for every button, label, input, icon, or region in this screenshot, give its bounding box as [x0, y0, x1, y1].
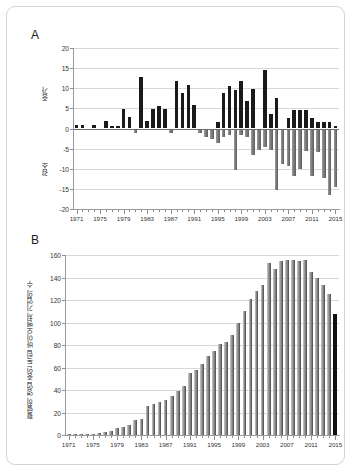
bar — [315, 278, 319, 436]
x-tick-mark — [111, 436, 112, 438]
bar — [145, 121, 149, 128]
bar-negative — [304, 129, 308, 151]
y-tick-label: 60 — [39, 364, 61, 371]
x-tick-mark — [281, 436, 282, 438]
x-tick-label: 1975 — [93, 215, 107, 222]
x-tick-mark-major — [117, 436, 118, 440]
y-tick-label: -15 — [47, 185, 69, 192]
x-tick-mark — [318, 210, 319, 212]
y-tick-label: 20 — [39, 409, 61, 416]
bar-negative — [310, 129, 314, 176]
bar — [127, 425, 131, 435]
x-tick-mark — [323, 436, 324, 438]
x-tick-mark-major — [335, 210, 336, 214]
x-tick-label: 1971 — [70, 215, 84, 222]
x-tick-label: 1971 — [62, 441, 76, 448]
bar — [104, 121, 108, 129]
x-tick-mark — [294, 210, 295, 212]
x-tick-label: 2007 — [280, 441, 294, 448]
bar — [285, 260, 289, 436]
x-tick-mark — [200, 210, 201, 212]
panel-a-letter: A — [31, 28, 39, 42]
bar — [236, 323, 240, 436]
x-tick-mark — [300, 210, 301, 212]
x-tick-mark — [235, 210, 236, 212]
bar — [157, 106, 161, 129]
bar — [279, 261, 283, 435]
x-tick-mark — [330, 210, 331, 212]
y-tick-label: 80 — [39, 342, 61, 349]
bar — [273, 269, 277, 436]
x-tick-mark-major — [312, 210, 313, 214]
bar — [298, 110, 302, 129]
gridline — [73, 48, 339, 49]
bar — [164, 400, 168, 435]
bar — [194, 370, 198, 435]
x-tick-mark — [105, 436, 106, 438]
bar-negative — [269, 129, 273, 151]
gridline — [73, 189, 339, 190]
bar-negative — [234, 129, 238, 171]
x-tick-mark — [182, 210, 183, 212]
bar — [263, 70, 267, 129]
x-tick-label: 2015 — [328, 441, 342, 448]
x-tick-label: 2011 — [304, 441, 317, 448]
x-tick-mark — [154, 436, 155, 438]
bar — [175, 81, 179, 128]
x-tick-mark-major — [194, 210, 195, 214]
panel-b-x-axis: 1971197519791983198719911995199920032007… — [7, 436, 346, 454]
bar-negative — [316, 129, 320, 152]
x-tick-label: 1979 — [117, 215, 131, 222]
bar — [192, 105, 196, 128]
x-tick-mark — [172, 436, 173, 438]
y-tick-label: -5 — [47, 145, 69, 152]
bar-negative — [334, 129, 338, 188]
x-tick-mark — [299, 436, 300, 438]
bar — [139, 77, 143, 129]
bar — [216, 122, 220, 129]
x-tick-label: 1995 — [211, 215, 225, 222]
bar — [304, 110, 308, 129]
bar — [234, 90, 238, 129]
x-tick-mark-major — [166, 436, 167, 440]
x-tick-label: 1999 — [231, 441, 245, 448]
zero-line — [73, 129, 339, 130]
x-tick-mark — [88, 210, 89, 212]
bar — [222, 93, 226, 129]
bar — [243, 311, 247, 435]
y-tick-label: 40 — [39, 387, 61, 394]
x-tick-mark — [271, 210, 272, 212]
bar — [297, 261, 301, 435]
bar — [133, 420, 137, 435]
x-tick-mark — [206, 210, 207, 212]
x-tick-mark — [224, 210, 225, 212]
x-tick-mark — [275, 436, 276, 438]
x-tick-label: 1979 — [110, 441, 124, 448]
bar — [181, 93, 185, 128]
gridline — [65, 255, 339, 256]
bar — [309, 272, 313, 435]
x-tick-mark — [259, 210, 260, 212]
y-tick-label: 100 — [39, 319, 61, 326]
x-tick-mark — [257, 436, 258, 438]
x-tick-mark — [253, 210, 254, 212]
x-tick-mark — [99, 436, 100, 438]
bar-negative — [222, 129, 226, 138]
y-tick-label: 10 — [47, 85, 69, 92]
y-tick-label: -10 — [47, 165, 69, 172]
bar — [151, 109, 155, 129]
x-tick-mark — [106, 210, 107, 212]
x-tick-mark-major — [171, 210, 172, 214]
bar — [255, 291, 259, 435]
bar-negative — [292, 129, 296, 176]
bar-negative — [210, 129, 214, 140]
x-tick-mark — [277, 210, 278, 212]
bar — [292, 110, 296, 129]
bar — [206, 356, 210, 435]
gridline — [73, 68, 339, 69]
bar — [267, 263, 271, 435]
x-tick-mark-major — [335, 436, 336, 440]
bar — [115, 428, 119, 435]
x-tick-mark — [112, 210, 113, 212]
bar-negative — [245, 129, 249, 137]
